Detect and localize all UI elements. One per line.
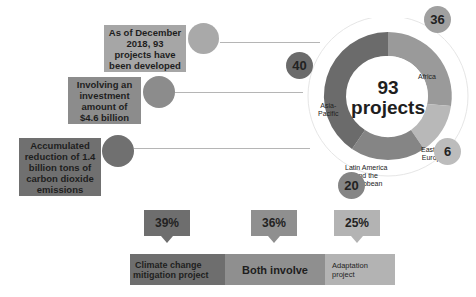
callout-both-percent: 36% <box>251 210 297 236</box>
bubble-asia-pacific: 40 <box>286 52 313 79</box>
donut-chart: 93 projects Africa Eastern Europe Latin … <box>300 18 476 194</box>
bubble-latin-america: 20 <box>338 172 365 199</box>
connector-line-3 <box>134 148 310 149</box>
connector-line-2 <box>175 92 303 93</box>
bar-segment-adaptation: Adaptation project <box>325 254 395 285</box>
stat-dot-investment-icon <box>143 76 175 108</box>
bubble-africa: 36 <box>424 6 451 33</box>
stat-box-investment: Involving an investment amount of $4.6 b… <box>68 77 141 124</box>
bar-segment-mitigation: Climate change mitigation project <box>130 254 225 285</box>
stat-text-investment: Involving an investment amount of $4.6 b… <box>72 79 137 123</box>
donut-center-number: 93 <box>348 78 428 98</box>
stat-text-projects: As of December 2018, 93 projects have be… <box>108 27 182 71</box>
bar-segment-both: Both involve <box>225 254 325 285</box>
stat-box-projects: As of December 2018, 93 projects have be… <box>104 25 186 72</box>
region-label-asia-pacific: Asia- Pacific <box>318 102 339 118</box>
callout-adaptation-percent: 25% <box>334 210 380 236</box>
stat-dot-projects-icon <box>188 23 219 54</box>
donut-center-label: 93 projects <box>348 78 428 118</box>
bubble-eastern-europe: 6 <box>434 138 461 165</box>
stat-box-emissions: Accumulated reduction of 1.4 billion ton… <box>19 138 101 196</box>
stat-dot-emissions-icon <box>102 135 134 167</box>
callout-mitigation-percent: 39% <box>144 210 190 236</box>
donut-center-unit: projects <box>348 98 428 118</box>
region-label-africa: Africa <box>418 73 436 81</box>
stat-text-emissions: Accumulated reduction of 1.4 billion ton… <box>23 140 97 195</box>
